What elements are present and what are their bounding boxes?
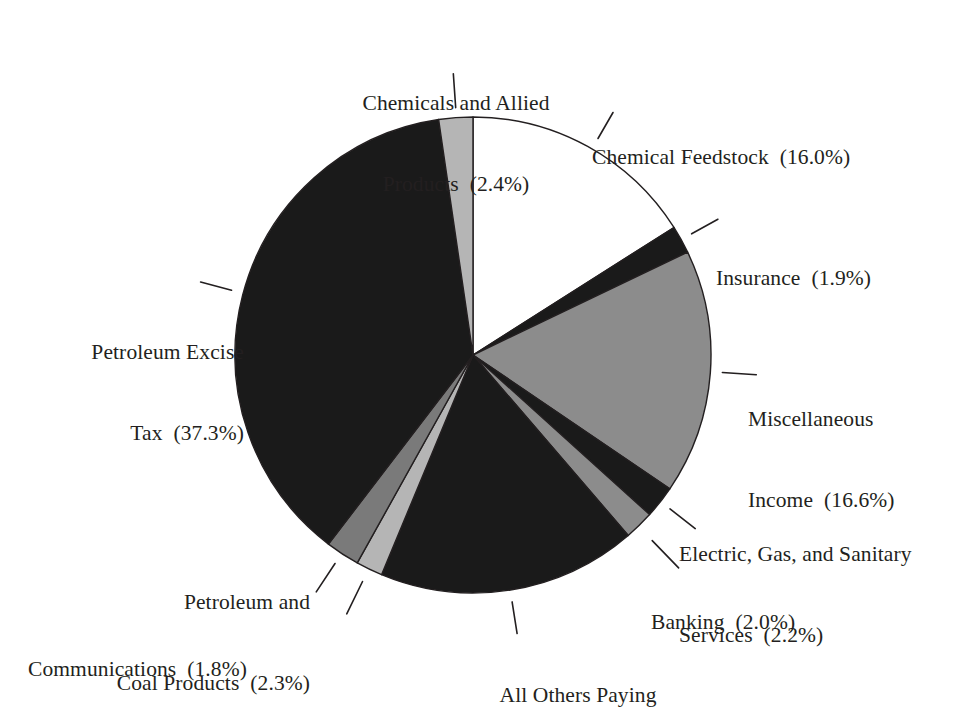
slice-label-chemicals-allied-products: Chemicals and Allied Products (2.4%)	[332, 36, 580, 252]
label-line-1: Petroleum and	[60, 589, 310, 616]
leader-line-petroleum-coal-products	[316, 563, 335, 591]
label-line-2: Coal Products (2.3%)	[60, 670, 310, 697]
label-line-1: Miscellaneous	[748, 406, 960, 433]
slice-label-petroleum-excise-tax: Petroleum Excise Tax (37.3%)	[18, 285, 244, 501]
label-line-1: Insurance (1.9%)	[716, 265, 946, 292]
pie-chart: Chemicals and Allied Products (2.4%) Che…	[0, 0, 962, 721]
slice-label-petroleum-and-coal-products: Petroleum and Coal Products (2.3%)	[60, 535, 310, 721]
label-line-1: Chemicals and Allied	[332, 90, 580, 117]
label-line-2: Tax (37.3%)	[18, 420, 244, 447]
slice-label-insurance: Insurance (1.9%)	[716, 211, 946, 346]
leader-line-communications	[347, 582, 363, 614]
label-line-2: Products (2.4%)	[332, 171, 580, 198]
label-line-1: Petroleum Excise	[18, 339, 244, 366]
label-line-1: All Others Paying	[428, 682, 728, 709]
label-line-1: Chemical Feedstock (16.0%)	[592, 144, 922, 171]
slice-label-chemical-feedstock: Chemical Feedstock (16.0%)	[592, 90, 922, 225]
slice-label-all-others-paying-corporate-tax: All Others Paying Corporate Tax (17.6%)	[428, 628, 728, 721]
